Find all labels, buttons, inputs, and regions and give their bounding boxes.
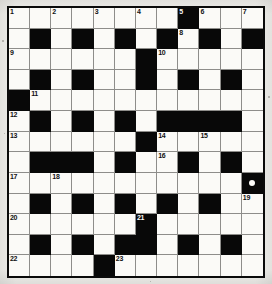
grid-cell-open[interactable]: [221, 8, 242, 29]
grid-cell-open[interactable]: [178, 49, 199, 70]
grid-cell-open[interactable]: [51, 235, 72, 256]
grid-cell-open[interactable]: [242, 132, 263, 153]
grid-cell-open[interactable]: [199, 90, 220, 111]
grid-cell-open[interactable]: [115, 90, 136, 111]
grid-cell-open[interactable]: [51, 255, 72, 276]
grid-cell-open[interactable]: 6: [199, 8, 220, 29]
grid-cell-open[interactable]: [30, 49, 51, 70]
grid-cell-open[interactable]: [9, 70, 30, 91]
grid-cell-open[interactable]: [178, 90, 199, 111]
grid-cell-open[interactable]: [221, 29, 242, 50]
grid-cell-open[interactable]: [178, 255, 199, 276]
grid-cell-open[interactable]: 15: [199, 132, 220, 153]
grid-cell-open[interactable]: [199, 173, 220, 194]
grid-cell-open[interactable]: 19: [242, 194, 263, 215]
grid-cell-open[interactable]: [72, 90, 93, 111]
grid-cell-open[interactable]: [51, 194, 72, 215]
grid-cell-open[interactable]: [9, 194, 30, 215]
grid-cell-open[interactable]: 12: [9, 111, 30, 132]
grid-cell-open[interactable]: [51, 49, 72, 70]
grid-cell-open[interactable]: [178, 173, 199, 194]
crossword-grid[interactable]: 1234567891011121314151617181920212223: [9, 8, 263, 276]
grid-cell-open[interactable]: [72, 173, 93, 194]
grid-cell-open[interactable]: [94, 111, 115, 132]
grid-cell-open[interactable]: [221, 255, 242, 276]
grid-cell-open[interactable]: [136, 255, 157, 276]
grid-cell-open[interactable]: 8: [178, 29, 199, 50]
grid-cell-open[interactable]: [178, 214, 199, 235]
grid-cell-open[interactable]: 18: [51, 173, 72, 194]
grid-cell-open[interactable]: [157, 255, 178, 276]
grid-cell-open[interactable]: [115, 8, 136, 29]
grid-cell-open[interactable]: 17: [9, 173, 30, 194]
grid-cell-open[interactable]: 20: [9, 214, 30, 235]
grid-cell-open[interactable]: 10: [157, 49, 178, 70]
grid-cell-open[interactable]: [30, 8, 51, 29]
grid-cell-open[interactable]: [94, 29, 115, 50]
grid-cell-open[interactable]: [199, 255, 220, 276]
grid-cell-open[interactable]: [136, 29, 157, 50]
grid-cell-open[interactable]: [94, 235, 115, 256]
grid-cell-open[interactable]: [157, 214, 178, 235]
grid-cell-open[interactable]: [157, 90, 178, 111]
grid-cell-open[interactable]: [199, 152, 220, 173]
grid-cell-open[interactable]: [242, 90, 263, 111]
grid-cell-open[interactable]: [242, 49, 263, 70]
grid-cell-open[interactable]: [72, 132, 93, 153]
grid-cell-open[interactable]: [136, 111, 157, 132]
grid-cell-open[interactable]: [115, 173, 136, 194]
grid-cell-open[interactable]: [136, 90, 157, 111]
grid-cell-open[interactable]: [51, 132, 72, 153]
grid-cell-open[interactable]: [199, 214, 220, 235]
grid-cell-open[interactable]: [30, 255, 51, 276]
grid-cell-open[interactable]: [30, 214, 51, 235]
grid-cell-open[interactable]: [51, 29, 72, 50]
grid-cell-open[interactable]: 13: [9, 132, 30, 153]
grid-cell-open[interactable]: [221, 90, 242, 111]
grid-cell-open[interactable]: [94, 90, 115, 111]
grid-cell-open[interactable]: [178, 194, 199, 215]
grid-cell-open[interactable]: [221, 49, 242, 70]
grid-cell-open[interactable]: [72, 214, 93, 235]
grid-cell-open[interactable]: 9: [9, 49, 30, 70]
grid-cell-open[interactable]: [51, 70, 72, 91]
grid-cell-open[interactable]: [221, 173, 242, 194]
grid-cell-open[interactable]: [242, 111, 263, 132]
grid-cell-open[interactable]: [157, 173, 178, 194]
grid-cell-open[interactable]: [51, 111, 72, 132]
grid-cell-open[interactable]: [72, 255, 93, 276]
grid-cell-open[interactable]: 2: [51, 8, 72, 29]
grid-cell-open[interactable]: [157, 8, 178, 29]
grid-cell-open[interactable]: [136, 152, 157, 173]
grid-cell-open[interactable]: [157, 70, 178, 91]
grid-cell-open[interactable]: [30, 173, 51, 194]
grid-cell-open[interactable]: 16: [157, 152, 178, 173]
grid-cell-open[interactable]: [242, 152, 263, 173]
grid-cell-open[interactable]: [242, 255, 263, 276]
grid-cell-open[interactable]: [178, 132, 199, 153]
grid-cell-open[interactable]: [242, 214, 263, 235]
grid-cell-open[interactable]: [9, 152, 30, 173]
grid-cell-open[interactable]: [72, 8, 93, 29]
grid-cell-open[interactable]: [199, 70, 220, 91]
grid-cell-open[interactable]: [242, 235, 263, 256]
grid-cell-open[interactable]: [115, 214, 136, 235]
grid-cell-open[interactable]: [9, 29, 30, 50]
grid-cell-open[interactable]: [9, 235, 30, 256]
grid-cell-open[interactable]: 22: [9, 255, 30, 276]
grid-cell-open[interactable]: [94, 152, 115, 173]
grid-cell-open[interactable]: [115, 70, 136, 91]
grid-cell-open[interactable]: [199, 235, 220, 256]
grid-cell-open[interactable]: [94, 49, 115, 70]
grid-cell-open[interactable]: [94, 70, 115, 91]
grid-cell-open[interactable]: [221, 194, 242, 215]
grid-cell-open[interactable]: [221, 214, 242, 235]
grid-cell-open[interactable]: [242, 70, 263, 91]
grid-cell-open[interactable]: [94, 173, 115, 194]
grid-cell-open[interactable]: [115, 132, 136, 153]
grid-cell-open[interactable]: [94, 214, 115, 235]
grid-cell-open[interactable]: [136, 194, 157, 215]
grid-cell-open[interactable]: [221, 132, 242, 153]
grid-cell-open[interactable]: [199, 49, 220, 70]
grid-cell-open[interactable]: [136, 173, 157, 194]
